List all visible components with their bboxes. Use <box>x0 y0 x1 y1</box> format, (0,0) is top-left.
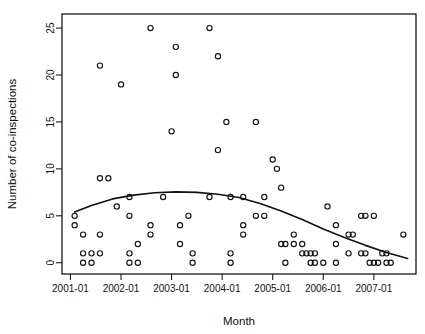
data-point <box>190 260 195 265</box>
data-point <box>228 260 233 265</box>
data-point <box>97 63 102 68</box>
y-tick-label: 10 <box>45 163 56 175</box>
plot-frame <box>62 14 416 274</box>
data-point <box>97 251 102 256</box>
chart-canvas: 0510152025 2001-012002-012003-012004-012… <box>0 0 425 334</box>
data-point <box>148 223 153 228</box>
y-tick-label: 5 <box>45 213 56 219</box>
x-tick-label: 2004-01 <box>204 283 241 294</box>
data-point <box>346 251 351 256</box>
data-point <box>148 25 153 30</box>
x-tick-label: 2001-01 <box>52 283 89 294</box>
x-tick-label: 2006-01 <box>305 283 342 294</box>
data-point <box>325 204 330 209</box>
x-tick-label: 2002-01 <box>103 283 140 294</box>
x-tick-label: 2007-01 <box>356 283 393 294</box>
data-point <box>161 194 166 199</box>
data-point <box>291 241 296 246</box>
data-point <box>215 148 220 153</box>
x-tick-label: 2003-01 <box>153 283 190 294</box>
y-tick-label: 0 <box>45 260 56 266</box>
data-point <box>80 232 85 237</box>
data-point <box>207 194 212 199</box>
x-axis-ticks <box>70 274 373 280</box>
data-point <box>97 232 102 237</box>
data-point <box>224 119 229 124</box>
data-point <box>333 241 338 246</box>
data-point <box>89 251 94 256</box>
data-point <box>333 260 338 265</box>
data-point <box>97 176 102 181</box>
data-points-layer <box>72 25 406 265</box>
y-axis-tick-labels: 0510152025 <box>45 22 56 265</box>
data-point <box>333 223 338 228</box>
data-point <box>127 251 132 256</box>
data-point <box>262 213 267 218</box>
data-point <box>241 223 246 228</box>
data-point <box>228 251 233 256</box>
data-point <box>72 213 77 218</box>
data-point <box>118 82 123 87</box>
y-tick-label: 15 <box>45 116 56 128</box>
x-axis-tick-labels: 2001-012002-012003-012004-012005-012006-… <box>52 283 393 294</box>
data-point <box>253 213 258 218</box>
data-point <box>135 241 140 246</box>
y-tick-label: 25 <box>45 22 56 34</box>
data-point <box>262 194 267 199</box>
data-point <box>300 241 305 246</box>
data-point <box>177 241 182 246</box>
data-point <box>253 119 258 124</box>
y-tick-label: 20 <box>45 69 56 81</box>
data-point <box>207 25 212 30</box>
data-point <box>127 260 132 265</box>
data-point <box>89 260 94 265</box>
data-point <box>135 260 140 265</box>
data-point <box>241 232 246 237</box>
data-point <box>270 157 275 162</box>
data-point <box>80 260 85 265</box>
data-point <box>190 251 195 256</box>
x-axis-title: Month <box>223 315 255 327</box>
data-point <box>401 232 406 237</box>
scatter-plot-figure: 0510152025 2001-012002-012003-012004-012… <box>0 0 425 334</box>
data-point <box>186 213 191 218</box>
data-point <box>274 166 279 171</box>
data-point <box>80 251 85 256</box>
data-point <box>173 72 178 77</box>
data-point <box>173 44 178 49</box>
data-point <box>169 129 174 134</box>
data-point <box>177 223 182 228</box>
data-point <box>283 260 288 265</box>
data-point <box>321 260 326 265</box>
data-point <box>127 213 132 218</box>
data-point <box>215 54 220 59</box>
data-point <box>114 204 119 209</box>
x-tick-label: 2005-01 <box>254 283 291 294</box>
data-point <box>148 232 153 237</box>
data-point <box>106 176 111 181</box>
data-point <box>279 185 284 190</box>
y-axis-ticks <box>56 28 62 263</box>
data-point <box>291 232 296 237</box>
data-point <box>72 223 77 228</box>
data-point <box>371 213 376 218</box>
y-axis-title: Number of co-inspections <box>6 79 18 210</box>
